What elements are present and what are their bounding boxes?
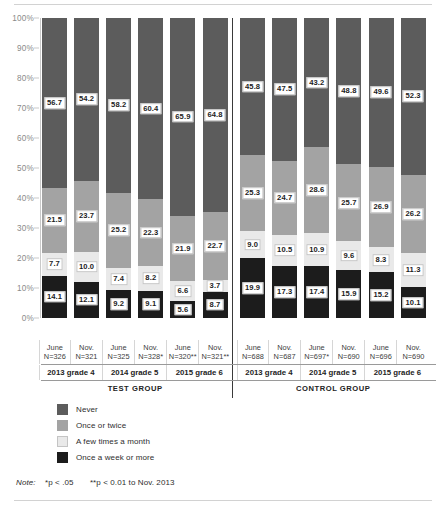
bar-value-label: 12.1 <box>76 294 97 306</box>
bar-segment: 28.6 <box>304 147 329 233</box>
bar-segment: 8.7 <box>203 292 228 318</box>
bar-segment: 26.2 <box>401 175 426 254</box>
bar-value-label: 43.2 <box>306 77 327 89</box>
bar-segment: 49.6 <box>369 18 394 167</box>
bar-value-label: 58.2 <box>108 100 129 112</box>
note-p01: **p < 0.01 to Nov. 2013 <box>90 478 175 487</box>
bar-value-label: 17.4 <box>306 286 327 298</box>
bar-value-label: 21.9 <box>172 243 193 255</box>
legend-swatch <box>57 404 68 415</box>
y-axis-tick-label: 70% <box>17 104 34 113</box>
category-period: Nov. <box>79 343 94 352</box>
bar-value-label: 26.9 <box>370 201 391 213</box>
bar-value-label: 52.3 <box>403 91 424 103</box>
category-period: June <box>111 343 127 352</box>
y-axis-tick <box>34 48 39 49</box>
bar-value-label: 15.2 <box>370 289 391 301</box>
super-group-row: TEST GROUPCONTROL GROUP <box>41 381 436 395</box>
bar-value-label: 7.7 <box>46 258 63 270</box>
bar-value-label: 10.5 <box>274 245 295 257</box>
legend-label: Once a week or more <box>76 453 154 462</box>
legend-item: A few times a month <box>57 433 154 449</box>
bar-segment: 43.2 <box>304 18 329 147</box>
bar-segment: 25.7 <box>336 164 361 241</box>
bar-segment: 52.3 <box>401 18 426 175</box>
bar-column: 45.825.39.019.9 <box>240 18 265 318</box>
bar-segment: 7.7 <box>42 253 67 276</box>
bar-column: 48.825.79.615.9 <box>336 18 361 318</box>
category-period: June <box>373 343 389 352</box>
bar-segment: 6.6 <box>170 281 195 301</box>
super-group-label: CONTROL GROUP <box>237 381 430 395</box>
super-group-label: TEST GROUP <box>39 381 232 395</box>
bar-segment: 58.2 <box>106 18 131 193</box>
category-n: N=321 <box>75 352 97 361</box>
y-axis-tick-label: 100% <box>12 14 34 23</box>
bar-column: 58.225.27.49.2 <box>106 18 131 318</box>
category-n: N=690 <box>402 352 424 361</box>
grade-group-cell: 2013 grade 4 <box>39 365 103 380</box>
bar-column: 49.626.98.315.2 <box>369 18 394 318</box>
bar-segment: 14.1 <box>42 276 67 318</box>
category-n: N=690 <box>338 352 360 361</box>
category-period: Nov. <box>277 343 292 352</box>
bar-value-label: 22.7 <box>204 241 225 253</box>
legend-label: A few times a month <box>76 437 150 446</box>
bar-column: 52.326.211.310.1 <box>401 18 426 318</box>
category-n: N=687 <box>274 352 296 361</box>
bars-container: 56.721.57.714.154.223.710.012.158.225.27… <box>41 18 436 318</box>
bar-value-label: 22.3 <box>140 227 161 239</box>
bar-segment: 15.9 <box>336 270 361 318</box>
category-cell: Nov.N=321 <box>71 340 103 364</box>
bar-segment: 54.2 <box>74 18 99 181</box>
plot-area: 100%90%80%70%60%50%40%30%20%10%0% 56.721… <box>0 18 446 340</box>
bar-segment: 10.0 <box>74 252 99 282</box>
bar-segment: 22.7 <box>203 212 228 280</box>
bar-segment: 8.3 <box>369 247 394 272</box>
bar-column: 60.422.38.29.1 <box>138 18 163 318</box>
bar-segment: 5.6 <box>170 301 195 318</box>
category-period: June <box>175 343 191 352</box>
category-cell: JuneN=696 <box>365 340 397 364</box>
bar-segment: 23.7 <box>74 181 99 252</box>
y-axis-tick <box>34 198 39 199</box>
y-axis-tick <box>34 78 39 79</box>
note-p05: *p < .05 <box>45 478 74 487</box>
category-cell: Nov.N=328* <box>135 340 167 364</box>
bar-segment: 10.9 <box>304 233 329 266</box>
figure-note: Note: *p < .05 **p < 0.01 to Nov. 2013 <box>16 478 175 487</box>
bar-column: 47.524.710.517.3 <box>272 18 297 318</box>
category-cell: JuneN=326 <box>39 340 71 364</box>
y-axis-tick-label: 30% <box>17 224 34 233</box>
bar-segment: 22.3 <box>138 199 163 266</box>
bar-segment: 45.8 <box>240 18 265 155</box>
category-cell: Nov.N=690 <box>333 340 365 364</box>
bar-value-label: 25.2 <box>108 225 129 237</box>
bar-segment: 25.2 <box>106 193 131 269</box>
category-cell: JuneN=688 <box>237 340 269 364</box>
bar-value-label: 9.2 <box>110 298 127 310</box>
y-axis-labels: 100%90%80%70%60%50%40%30%20%10%0% <box>0 18 38 318</box>
bar-value-label: 65.9 <box>172 111 193 123</box>
bar-segment: 47.5 <box>272 18 297 161</box>
bar-column: 65.921.96.65.6 <box>170 18 195 318</box>
bar-value-label: 11.3 <box>403 265 424 277</box>
category-period: Nov. <box>208 343 223 352</box>
bar-segment: 9.1 <box>138 291 163 318</box>
bar-segment: 3.7 <box>203 280 228 291</box>
category-cell: Nov.N=690 <box>397 340 429 364</box>
bar-segment: 25.3 <box>240 155 265 231</box>
category-n: N=697* <box>304 352 329 361</box>
category-n: N=688 <box>242 352 264 361</box>
bar-value-label: 21.5 <box>44 215 65 227</box>
bar-value-label: 10.0 <box>76 261 97 273</box>
bar-value-label: 49.6 <box>370 87 391 99</box>
bar-value-label: 48.8 <box>338 85 359 97</box>
y-axis-tick-label: 50% <box>17 164 34 173</box>
bar-segment: 56.7 <box>42 18 67 188</box>
bar-value-label: 9.6 <box>340 250 357 262</box>
bar-segment: 48.8 <box>336 18 361 164</box>
category-cell: Nov.N=687 <box>269 340 301 364</box>
y-axis-tick <box>34 138 39 139</box>
category-cell: JuneN=320** <box>167 340 199 364</box>
